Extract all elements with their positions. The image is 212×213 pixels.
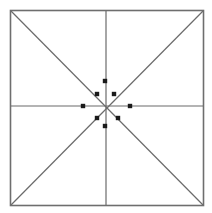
node-west-dot — [81, 104, 85, 108]
node-east-dot — [128, 104, 132, 108]
node-north-dot — [103, 79, 107, 83]
radial-node-diagram — [0, 0, 212, 213]
node-southeast-dot — [116, 116, 120, 120]
figure-container — [0, 0, 212, 213]
node-south-dot — [103, 124, 107, 128]
node-northwest-dot — [95, 92, 99, 96]
node-southwest-dot — [95, 116, 99, 120]
node-northeast-dot — [112, 92, 116, 96]
